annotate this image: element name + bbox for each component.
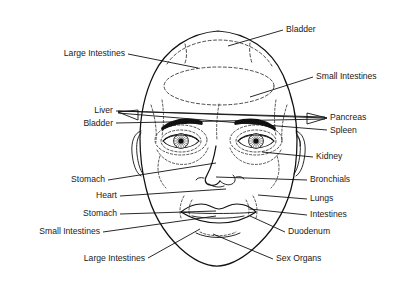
left-temple-zone [151,105,156,142]
nose [196,146,244,187]
label-layer: Bladder Large Intestines Small Intestine… [39,24,376,263]
left-mouth-zone [180,196,184,218]
right-temple-zone [282,105,287,142]
label-stomach-lower: Stomach [83,208,117,218]
label-stomach-upper: Stomach [71,174,105,184]
right-cheek-zone [271,156,279,188]
chin [196,233,240,238]
leader-small-intestines-right [250,77,313,97]
leader-intestines [250,209,307,215]
left-eye [163,134,199,149]
label-liver: Liver [94,105,113,115]
diagram-canvas: Bladder Large Intestines Small Intestine… [0,0,410,291]
leader-large-intestines-top [128,54,198,68]
head-outline [140,31,297,266]
leader-heart [120,189,226,196]
right-ear [294,131,305,176]
label-bladder-left: Bladder [83,118,113,128]
right-eye [238,134,274,149]
left-ear [132,131,143,176]
label-kidney: Kidney [316,151,343,161]
label-sex-organs: Sex Organs [276,253,321,263]
leader-duodenum [250,216,285,232]
label-intestines: Intestines [310,209,347,219]
leader-lungs [258,195,307,199]
label-lungs: Lungs [310,193,333,203]
label-heart: Heart [96,190,118,200]
label-spleen: Spleen [330,125,357,135]
label-bladder-top: Bladder [286,24,316,34]
label-large-intestines-bottom: Large Intestines [84,253,145,263]
label-small-intestines-left: Small Intestines [39,226,100,236]
label-bronchials: Bronchials [310,174,350,184]
label-duodenum: Duodenum [288,226,330,236]
mouth [181,204,256,223]
label-pancreas: Pancreas [330,112,366,122]
arrow-pancreas-spleen [307,113,327,124]
facial-reflexology-diagram: Bladder Large Intestines Small Intestine… [0,0,410,291]
forehead-mid-oval-zone [164,67,274,105]
leader-large-intestines-bottom [148,229,200,258]
label-small-intestines-right: Small Intestines [316,71,377,81]
right-mouth-zone [253,196,257,218]
leader-pancreas [118,111,327,118]
label-large-intestines-top: Large Intestines [64,48,125,58]
